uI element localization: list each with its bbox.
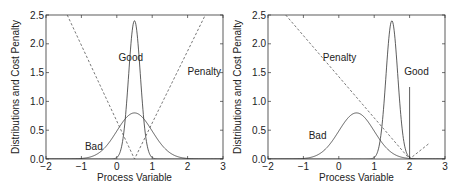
series-bad — [268, 113, 445, 159]
y-tick-label: 0.5 — [252, 125, 266, 136]
y-tick-label: 1.0 — [30, 96, 44, 107]
y-tick-label: 1.5 — [30, 67, 44, 78]
annotation-penalty: Penalty — [188, 66, 221, 77]
x-tick-label: −1 — [298, 161, 310, 172]
y-tick-label: 2.5 — [252, 10, 266, 21]
annotation-bad: Bad — [309, 130, 327, 141]
series-penalty — [67, 15, 205, 159]
x-axis-label: Process Variable — [97, 172, 172, 183]
x-tick-label: 2 — [185, 161, 191, 172]
x-axis-label: Process Variable — [319, 172, 394, 183]
annotation-bad: Bad — [85, 141, 103, 152]
axes-frame — [46, 15, 223, 159]
right-plot: −2−101230.00.51.01.52.02.5Process Variab… — [232, 10, 448, 184]
y-tick-label: 0.5 — [30, 125, 44, 136]
series-good — [46, 21, 223, 159]
annotation-good: Good — [119, 52, 143, 63]
chart-figure: −2−101230.00.51.01.52.02.5Process Variab… — [0, 0, 465, 188]
series-bad — [46, 113, 223, 159]
y-tick-label: 2.0 — [252, 38, 266, 49]
x-tick-label: 1 — [371, 161, 377, 172]
x-tick-label: 1 — [149, 161, 155, 172]
y-tick-label: 1.0 — [252, 96, 266, 107]
y-tick-label: 0.0 — [30, 154, 44, 165]
x-tick-label: 0 — [114, 161, 120, 172]
series-good — [268, 21, 445, 159]
x-tick-label: 0 — [336, 161, 342, 172]
left-plot: −2−101230.00.51.01.52.02.5Process Variab… — [10, 10, 226, 184]
x-tick-label: 2 — [407, 161, 413, 172]
x-tick-label: 3 — [442, 161, 448, 172]
y-tick-label: 2.5 — [30, 10, 44, 21]
axes-frame — [268, 15, 445, 159]
annotation-penalty: Penalty — [323, 52, 356, 63]
annotation-good: Good — [404, 66, 428, 77]
x-tick-label: 3 — [220, 161, 226, 172]
y-axis-label: Distributions and Cost Penalty — [10, 20, 21, 154]
series-penalty — [286, 15, 429, 159]
y-tick-label: 2.0 — [30, 38, 44, 49]
y-tick-label: 0.0 — [252, 154, 266, 165]
y-tick-label: 1.5 — [252, 67, 266, 78]
y-axis-label: Distributions and Cost Penalty — [232, 20, 243, 154]
x-tick-label: −1 — [76, 161, 88, 172]
